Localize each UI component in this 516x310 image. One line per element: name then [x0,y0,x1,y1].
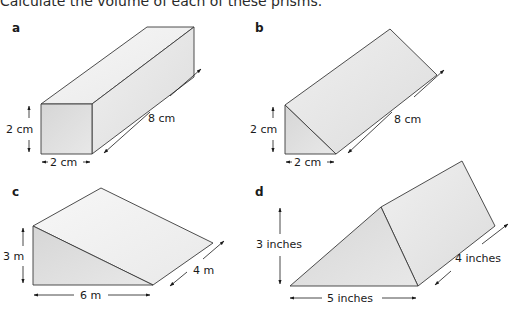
prism-b: b 2 cm 2 cm 8 cm [250,21,444,169]
length-arrow-down [170,272,187,286]
length-label-b: 8 cm [394,113,421,126]
length-label-d: 4 inches [455,252,501,265]
part-label-a: a [12,21,20,35]
prism-c: c 3 m 6 m 4 m [3,185,224,302]
base-label-d: 5 inches [327,292,373,305]
part-label-d: d [255,185,264,199]
part-label-c: c [12,185,19,199]
part-label-b: b [255,21,264,35]
prism-d: d 3 inches 5 inches 4 inches [255,161,508,305]
base-label-c: 6 m [80,289,101,302]
prism-a: a 2 cm 2 cm 8 cm [6,21,201,169]
front-face [41,104,92,154]
width-label-a: 2 cm [50,156,77,169]
height-label-a: 2 cm [6,123,33,136]
height-label-b: 2 cm [250,123,277,136]
height-label-d: 3 inches [256,238,302,251]
length-label-c: 4 m [193,264,214,277]
length-label-a: 8 cm [148,112,175,125]
prisms-diagram: a 2 cm 2 cm 8 cm b 2 cm 2 cm [0,0,516,310]
base-label-b: 2 cm [294,156,321,169]
height-label-c: 3 m [3,250,24,263]
length-arrow-down [435,271,451,285]
